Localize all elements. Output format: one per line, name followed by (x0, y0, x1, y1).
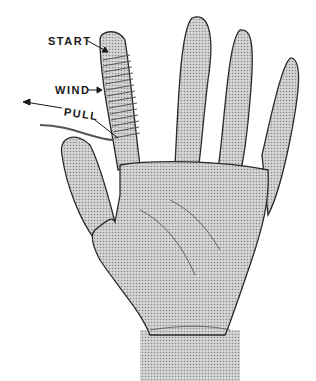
finger-middle (175, 17, 211, 168)
wrist (140, 330, 240, 381)
label-wind: WIND (55, 84, 90, 96)
palm (92, 162, 268, 335)
label-start: START (48, 35, 91, 47)
hand (61, 17, 298, 335)
hand-diagram (0, 0, 316, 381)
finger-ring (218, 30, 252, 176)
